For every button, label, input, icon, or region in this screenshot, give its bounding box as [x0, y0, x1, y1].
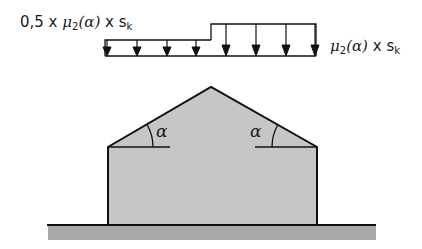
load-arrows-left [103, 40, 200, 56]
s-subscript: k [394, 45, 400, 56]
angle-label-right: α [250, 121, 261, 141]
angle-label-left: α [156, 121, 167, 141]
ground [48, 226, 376, 240]
mu-symbol: μ [330, 37, 340, 55]
load-label-left: 0,5 x μ2(α) x sk [20, 13, 132, 32]
times-s: x s [100, 13, 126, 31]
angle-expression: (α) [346, 37, 368, 55]
times-s: x s [368, 37, 394, 55]
angle-expression: (α) [78, 13, 100, 31]
load-arrows-right [222, 24, 319, 56]
load-label-right: μ2(α) x sk [330, 37, 400, 56]
s-subscript: k [126, 21, 132, 32]
load-left-prefix: 0,5 x [20, 13, 62, 31]
mu-symbol: μ [62, 13, 72, 31]
building [108, 87, 317, 225]
